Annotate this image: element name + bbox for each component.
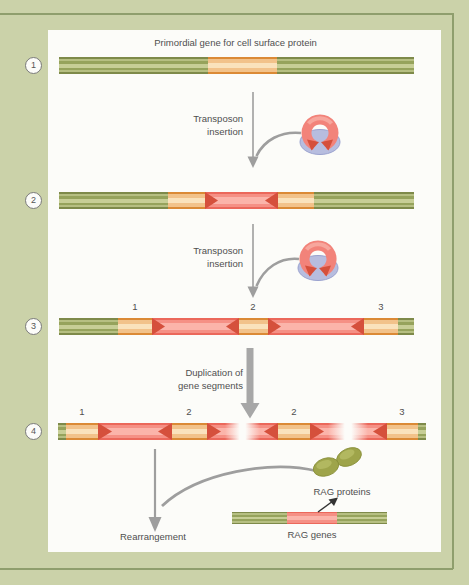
rag-curve-arrow — [162, 467, 317, 506]
rag-proteins-icon — [311, 444, 364, 479]
rearrangement-arrowhead — [149, 517, 162, 532]
arrows-overlay — [0, 0, 469, 585]
rag-genes-pointer-arrowhead — [329, 498, 339, 507]
transposon-icon — [300, 118, 340, 154]
insertion-arrowhead-2 — [248, 287, 259, 299]
insertion-arrowhead-1 — [248, 157, 259, 169]
insertion-curve-1 — [257, 133, 302, 156]
figure-page: Primordial gene for cell surface protein… — [0, 0, 469, 585]
transposon-icon — [298, 244, 338, 280]
insertion-curve-2 — [257, 259, 300, 286]
rag-genes-pointer-arrow — [318, 501, 333, 512]
duplication-arrow — [241, 348, 260, 419]
